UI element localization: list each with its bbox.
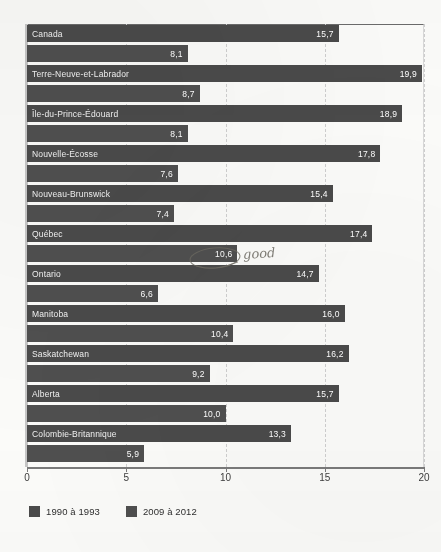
bar-value-label: 9,2 (192, 369, 204, 379)
bar-value-label: 18,9 (380, 109, 397, 119)
bar-series-a: Ontario14,7 (27, 265, 319, 282)
bar-group: Canada15,78,1 (27, 25, 424, 65)
bar-series-b: 6,6 (27, 285, 158, 302)
bar-group: Saskatchewan16,29,2 (27, 345, 424, 385)
bar-series-b: 8,7 (27, 85, 200, 102)
legend-label: 2009 à 2012 (143, 506, 197, 517)
category-label: Terre-Neuve-et-Labrador (32, 69, 129, 79)
bar-series-a: Manitoba16,0 (27, 305, 345, 322)
x-tick-label: 20 (418, 472, 429, 483)
bar-series-b: 10,6 (27, 245, 237, 262)
category-label: Colombie-Britannique (32, 429, 117, 439)
bar-value-label: 7,6 (160, 169, 172, 179)
bar-series-a: Île-du-Prince-Édouard18,9 (27, 105, 402, 122)
bar-value-label: 15,4 (310, 189, 327, 199)
bar-group: Québec17,410,6 (27, 225, 424, 265)
bar-series-b: 5,9 (27, 445, 144, 462)
bar-series-a: Nouveau-Brunswick15,4 (27, 185, 333, 202)
bar-series-b: 8,1 (27, 125, 188, 142)
bar-group: Ontario14,76,6 (27, 265, 424, 305)
bar-value-label: 10,0 (203, 409, 220, 419)
bar-group: Île-du-Prince-Édouard18,98,1 (27, 105, 424, 145)
bar-value-label: 14,7 (296, 269, 313, 279)
legend-item[interactable]: 1990 à 1993 (29, 506, 100, 517)
bar-series-a: Saskatchewan16,2 (27, 345, 349, 362)
bar-series-a: Nouvelle-Écosse17,8 (27, 145, 380, 162)
category-label: Île-du-Prince-Édouard (32, 109, 118, 119)
bar-value-label: 8,7 (182, 89, 194, 99)
bar-series-b: 7,6 (27, 165, 178, 182)
bar-chart: Canada15,78,1Terre-Neuve-et-Labrador19,9… (27, 24, 424, 467)
category-label: Nouveau-Brunswick (32, 189, 110, 199)
bar-value-label: 19,9 (400, 69, 417, 79)
category-label: Nouvelle-Écosse (32, 149, 98, 159)
bar-value-label: 10,4 (211, 329, 228, 339)
bar-group: Colombie-Britannique13,35,9 (27, 425, 424, 465)
bar-value-label: 15,7 (316, 389, 333, 399)
bar-series-a: Terre-Neuve-et-Labrador19,9 (27, 65, 422, 82)
bar-value-label: 8,1 (170, 49, 182, 59)
category-label: Ontario (32, 269, 61, 279)
x-tick-label: 10 (220, 472, 231, 483)
chart-legend: 1990 à 19932009 à 2012 (29, 506, 197, 517)
gridline-20 (424, 24, 425, 467)
bar-value-label: 16,2 (326, 349, 343, 359)
legend-label: 1990 à 1993 (46, 506, 100, 517)
category-label: Alberta (32, 389, 60, 399)
bar-value-label: 17,4 (350, 229, 367, 239)
bar-series-b: 8,1 (27, 45, 188, 62)
bar-series-b: 10,0 (27, 405, 226, 422)
x-tick-label: 5 (123, 472, 129, 483)
bar-value-label: 6,6 (141, 289, 153, 299)
bar-series-a: Colombie-Britannique13,3 (27, 425, 291, 442)
category-label: Saskatchewan (32, 349, 89, 359)
category-label: Québec (32, 229, 63, 239)
bar-group: Nouveau-Brunswick15,47,4 (27, 185, 424, 225)
bar-value-label: 16,0 (322, 309, 339, 319)
bar-value-label: 15,7 (316, 29, 333, 39)
bar-group: Alberta15,710,0 (27, 385, 424, 425)
bar-group: Terre-Neuve-et-Labrador19,98,7 (27, 65, 424, 105)
bar-group: Manitoba16,010,4 (27, 305, 424, 345)
bar-group: Nouvelle-Écosse17,87,6 (27, 145, 424, 185)
bar-value-label: 10,6 (215, 249, 232, 259)
legend-swatch (126, 506, 137, 517)
bar-series-b: 7,4 (27, 205, 174, 222)
bar-value-label: 13,3 (269, 429, 286, 439)
x-tick-label: 15 (319, 472, 330, 483)
bar-value-label: 17,8 (358, 149, 375, 159)
bar-value-label: 5,9 (127, 449, 139, 459)
bar-value-label: 8,1 (170, 129, 182, 139)
category-label: Canada (32, 29, 63, 39)
bar-series-b: 10,4 (27, 325, 233, 342)
category-label: Manitoba (32, 309, 68, 319)
bar-series-a: Canada15,7 (27, 25, 339, 42)
x-tick-label: 0 (24, 472, 30, 483)
legend-item[interactable]: 2009 à 2012 (126, 506, 197, 517)
bar-series-b: 9,2 (27, 365, 210, 382)
bar-value-label: 7,4 (156, 209, 168, 219)
bar-series-a: Québec17,4 (27, 225, 372, 242)
bar-series-a: Alberta15,7 (27, 385, 339, 402)
legend-swatch (29, 506, 40, 517)
